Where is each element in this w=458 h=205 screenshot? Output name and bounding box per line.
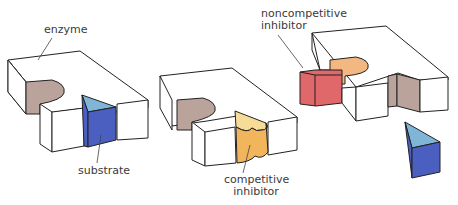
enzyme-with-substrate (8, 51, 148, 152)
enzyme-label: enzyme (44, 24, 88, 36)
competitive-inhibitor-label: competitive inhibitor (224, 174, 288, 198)
enzyme-with-noncompetitive-inhibitor (300, 26, 448, 178)
noncompetitive-label-line2: inhibitor (261, 20, 347, 32)
enzyme-with-competitive-inhibitor (160, 68, 297, 166)
noncompetitive-inhibitor-label: noncompetitive inhibitor (261, 8, 347, 32)
competitive-label-line2: inhibitor (224, 186, 288, 198)
noncompetitive-leader (278, 35, 303, 68)
substrate-label: substrate (78, 165, 130, 177)
